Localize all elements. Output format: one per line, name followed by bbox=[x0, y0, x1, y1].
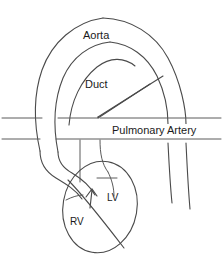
flow-arrow-shaft bbox=[90, 190, 92, 208]
label-right-ventricle: RV bbox=[70, 217, 84, 227]
interventricular-septum bbox=[68, 180, 124, 248]
anatomy-diagram: Aorta Duct Pulmonary Artery LV RV bbox=[0, 0, 223, 271]
aorta-descending-inner bbox=[168, 143, 172, 203]
label-duct: Duct bbox=[85, 79, 108, 90]
label-left-ventricle: LV bbox=[107, 193, 119, 203]
label-pulmonary-artery: Pulmonary Artery bbox=[110, 124, 198, 137]
aorta-inner-arch-left bbox=[55, 42, 110, 152]
pulmonary-outflow-right-wall bbox=[100, 140, 108, 172]
aorta-outer-arch-right bbox=[103, 18, 186, 124]
aorta-descending-outer bbox=[186, 143, 190, 209]
aorta-inner-arch-right bbox=[110, 42, 168, 124]
label-aorta: Aorta bbox=[83, 30, 109, 41]
